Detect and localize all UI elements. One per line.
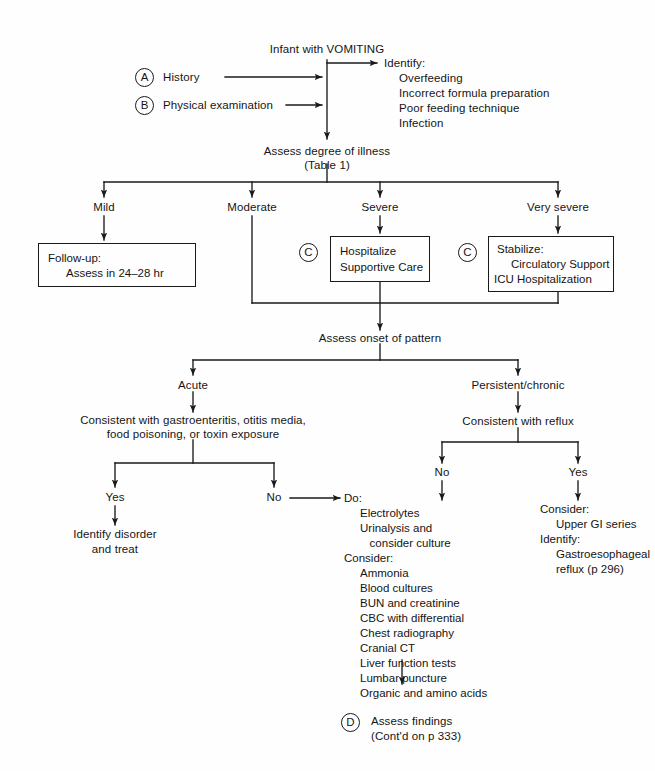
stabilize-box: Stabilize: Circulatory Support ICU Hospi… bbox=[488, 236, 614, 292]
branch-label-mild: Mild bbox=[93, 200, 115, 215]
followup-box: Follow-up: Assess in 24–28 hr bbox=[38, 243, 196, 287]
step-marker-c-very-severe: C bbox=[458, 243, 477, 262]
identify-disorder-line2: and treat bbox=[92, 542, 138, 557]
stabilize-line3: ICU Hospitalization bbox=[494, 272, 592, 287]
acute-criteria-line2: food poisoning, or toxin exposure bbox=[107, 427, 280, 442]
identify-disorder-line1: Identify disorder bbox=[73, 527, 157, 542]
step-marker-a: A bbox=[135, 68, 154, 87]
reflux-yes-consider-heading: Consider: bbox=[540, 502, 589, 517]
followup-line2: Assess in 24–28 hr bbox=[66, 266, 164, 281]
workup-consider-item-cranial-ct: Cranial CT bbox=[360, 641, 415, 656]
reflux-answer-yes: Yes bbox=[568, 465, 587, 480]
root-label: Infant with VOMITING bbox=[270, 42, 384, 57]
step-marker-c-severe: C bbox=[299, 243, 318, 262]
workup-consider-item-chest-radiography: Chest radiography bbox=[360, 626, 454, 641]
branch-label-very-severe: Very severe bbox=[527, 200, 589, 215]
acute-answer-yes: Yes bbox=[105, 490, 124, 505]
hospitalize-line2: Supportive Care bbox=[340, 260, 423, 275]
workup-consider-item-bun-creatinine: BUN and creatinine bbox=[360, 596, 460, 611]
hospitalize-box: Hospitalize Supportive Care bbox=[330, 236, 430, 282]
workup-consider-item-lumbar-puncture: Lumbar puncture bbox=[360, 671, 447, 686]
followup-line1: Follow-up: bbox=[48, 251, 101, 266]
workup-consider-item-ammonia: Ammonia bbox=[360, 566, 409, 581]
acute-criteria-line1: Consistent with gastroenteritis, otitis … bbox=[80, 413, 306, 428]
identify-item-overfeeding: Overfeeding bbox=[399, 71, 463, 86]
acute-answer-no: No bbox=[267, 490, 282, 505]
workup-consider-item-cbc: CBC with differential bbox=[360, 611, 464, 626]
workup-do-item-consider-culture: consider culture bbox=[360, 536, 451, 551]
assess-degree-line2: (Table 1) bbox=[304, 158, 350, 173]
assess-findings-line2: (Cont'd on p 333) bbox=[371, 729, 461, 744]
reflux-yes-consider-item: Upper GI series bbox=[556, 517, 637, 532]
identify-item-poor-feeding: Poor feeding technique bbox=[399, 101, 520, 116]
reflux-yes-identify-line1: Gastroesophageal bbox=[556, 547, 650, 562]
step-a-label: History bbox=[163, 70, 199, 85]
workup-do-heading: Do: bbox=[344, 491, 362, 506]
workup-consider-item-organic-amino-acids: Organic and amino acids bbox=[360, 686, 487, 701]
workup-consider-item-liver-function: Liver function tests bbox=[360, 656, 456, 671]
workup-consider-item-blood-cultures: Blood cultures bbox=[360, 581, 433, 596]
branch-label-moderate: Moderate bbox=[227, 200, 276, 215]
stabilize-line1: Stabilize: bbox=[497, 242, 544, 257]
identify-item-incorrect-formula: Incorrect formula preparation bbox=[399, 86, 550, 101]
step-b-label: Physical examination bbox=[163, 98, 273, 113]
workup-do-item-urinalysis: Urinalysis and bbox=[360, 521, 432, 536]
hospitalize-line1: Hospitalize bbox=[340, 244, 396, 259]
reflux-yes-identify-line2: reflux (p 296) bbox=[556, 562, 624, 577]
identify-heading: Identify: bbox=[384, 56, 425, 71]
branch-label-severe: Severe bbox=[361, 200, 398, 215]
reflux-yes-identify-heading: Identify: bbox=[540, 532, 580, 547]
branch-label-persistent: Persistent/chronic bbox=[471, 378, 564, 393]
workup-do-item-electrolytes: Electrolytes bbox=[360, 506, 419, 521]
branch-label-acute: Acute bbox=[178, 378, 208, 393]
step-marker-d: D bbox=[341, 713, 360, 732]
stabilize-line2: Circulatory Support bbox=[511, 257, 609, 272]
workup-consider-heading: Consider: bbox=[344, 551, 393, 566]
assess-degree-line1: Assess degree of illness bbox=[264, 144, 390, 159]
reflux-heading: Consistent with reflux bbox=[462, 414, 574, 429]
flowchart-page: Infant with VOMITING A History B Physica… bbox=[0, 0, 655, 771]
reflux-answer-no: No bbox=[435, 465, 450, 480]
assess-findings-line1: Assess findings bbox=[371, 714, 452, 729]
assess-onset-heading: Assess onset of pattern bbox=[319, 331, 441, 346]
identify-item-infection: Infection bbox=[399, 116, 443, 131]
step-marker-b: B bbox=[135, 96, 154, 115]
